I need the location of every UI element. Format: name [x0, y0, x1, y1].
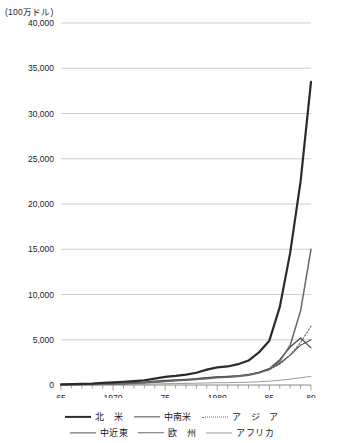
series-line-中近東 — [61, 340, 311, 385]
y-axis-tick-labels: 05,00010,00015,00020,00025,00030,00035,0… — [28, 18, 54, 390]
chart-legend: 北 米中南米ア ジ ア中近東欧 州アフリカ — [0, 410, 344, 439]
x-tick-label-85: 85 — [265, 393, 275, 398]
legend-item-europe[interactable]: 欧 州 — [138, 426, 196, 439]
legend-swatch-europe-icon — [138, 429, 164, 437]
legend-swatch-africa-icon — [206, 429, 232, 437]
series-line-北 米 — [61, 82, 311, 385]
legend-label-latin-america: 中南米 — [164, 410, 192, 423]
x-axis — [61, 385, 311, 391]
y-tick-label-15000: 15,000 — [28, 244, 54, 254]
x-tick-label-80: 1980 — [208, 393, 227, 398]
legend-item-asia[interactable]: ア ジ ア — [202, 410, 279, 423]
y-tick-label-5000: 5,000 — [33, 335, 55, 345]
legend-swatch-asia-icon — [202, 413, 228, 421]
legend-item-middle-east[interactable]: 中近東 — [70, 426, 128, 439]
series-line-中南米 — [61, 338, 311, 385]
x-tick-label-70: 1970 — [104, 393, 123, 398]
legend-item-latin-america[interactable]: 中南米 — [134, 410, 192, 423]
legend-swatch-latin-america-icon — [134, 413, 160, 421]
y-tick-label-20000: 20,000 — [28, 199, 54, 209]
y-tick-label-25000: 25,000 — [28, 154, 54, 164]
y-tick-label-10000: 10,000 — [28, 290, 54, 300]
gridlines — [61, 23, 311, 340]
legend-row-1: 北 米中南米ア ジ ア — [60, 410, 283, 423]
x-tick-label-89: 89 — [306, 393, 316, 398]
y-tick-label-0: 0 — [49, 380, 54, 390]
legend-label-europe: 欧 州 — [168, 426, 196, 439]
legend-item-africa[interactable]: アフリカ — [206, 426, 274, 439]
line-chart-plot: 05,00010,00015,00020,00025,00030,00035,0… — [0, 0, 344, 398]
x-tick-label-75: 75 — [160, 393, 170, 398]
chart-container: (100万ドル) 05,00010,00015,00020,00025,0003… — [0, 0, 344, 443]
legend-label-north-america: 北 米 — [95, 410, 123, 423]
series-line-ア ジ ア — [61, 326, 311, 385]
legend-swatch-north-america-icon — [65, 413, 91, 421]
legend-label-asia: ア ジ ア — [232, 410, 279, 423]
legend-row-2: 中近東欧 州アフリカ — [65, 426, 279, 439]
legend-swatch-middle-east-icon — [70, 429, 96, 437]
y-tick-label-35000: 35,000 — [28, 63, 54, 73]
legend-label-middle-east: 中近東 — [100, 426, 128, 439]
legend-label-africa: アフリカ — [236, 426, 274, 439]
y-tick-label-30000: 30,000 — [28, 109, 54, 119]
legend-item-north-america[interactable]: 北 米 — [65, 410, 123, 423]
x-axis-tick-labels: 6519707519808589 — [56, 393, 316, 398]
y-tick-label-40000: 40,000 — [28, 18, 54, 28]
x-tick-label-65: 65 — [56, 393, 66, 398]
